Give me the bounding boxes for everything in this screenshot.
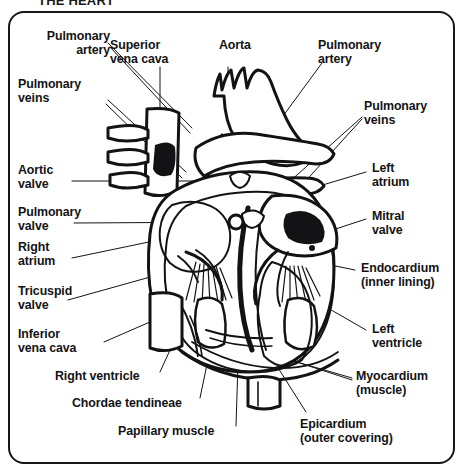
label-pulmonary-veins-right: Pulmonary veins bbox=[364, 99, 460, 127]
la-dot-2 bbox=[309, 245, 315, 251]
label-chordae-tendineae: Chordae tendineae bbox=[72, 396, 204, 410]
label-pulmonary-artery-right: Pulmonary artery bbox=[318, 38, 414, 66]
label-right-atrium: Right atrium bbox=[18, 240, 92, 268]
pulmonary-vein-left-1 bbox=[108, 125, 148, 141]
label-epicardium: Epicardium (outer covering) bbox=[300, 417, 436, 445]
heart-anatomy-drawing bbox=[108, 68, 338, 409]
label-pulmonary-artery-left: Pulmonary artery bbox=[14, 29, 110, 57]
label-aortic-valve: Aortic valve bbox=[18, 163, 92, 191]
pulmonary-artery-trunk bbox=[195, 133, 334, 176]
label-pulmonary-veins-left: Pulmonary veins bbox=[18, 77, 114, 105]
pulmonary-vein-left-2 bbox=[108, 149, 148, 165]
inferior-vena-cava-vessel bbox=[150, 293, 182, 351]
label-left-atrium: Left atrium bbox=[372, 161, 452, 189]
label-mitral-valve: Mitral valve bbox=[372, 209, 452, 237]
label-inferior-vena-cava: Inferior vena cava bbox=[18, 327, 112, 355]
la-dot-1 bbox=[292, 232, 300, 240]
label-superior-vena-cava: Superior vena cava bbox=[110, 38, 206, 66]
label-myocardium: Myocardium (muscle) bbox=[356, 369, 460, 397]
label-left-ventricle: Left ventricle bbox=[372, 322, 456, 350]
label-papillary-muscle: Papillary muscle bbox=[118, 424, 242, 438]
diagram-page: THE HEART bbox=[0, 0, 465, 474]
label-aorta: Aorta bbox=[219, 38, 289, 52]
label-endocardium: Endocardium (inner lining) bbox=[361, 261, 465, 289]
label-tricuspid-valve: Tricuspid valve bbox=[18, 284, 108, 312]
label-right-ventricle: Right ventricle bbox=[55, 369, 165, 383]
descending-aorta-stub bbox=[248, 376, 280, 409]
svc-lumen bbox=[153, 142, 176, 176]
label-pulmonary-valve: Pulmonary valve bbox=[18, 205, 114, 233]
pulmonary-vein-left-3 bbox=[110, 172, 148, 188]
